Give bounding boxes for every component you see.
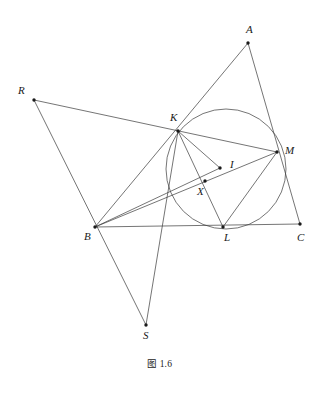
point-X xyxy=(203,179,206,182)
segment-R-S xyxy=(34,100,146,325)
point-M xyxy=(275,150,278,153)
circle-group xyxy=(166,109,286,229)
segment-K-I xyxy=(178,131,220,168)
incircle-circle xyxy=(166,109,286,229)
segment-A-B xyxy=(95,43,248,227)
figure-canvas xyxy=(0,0,319,393)
point-label-I: I xyxy=(230,159,234,170)
geometry-figure: A B C K L M I X R S 图 1.6 xyxy=(0,0,319,393)
point-label-K: K xyxy=(170,112,177,123)
point-B xyxy=(93,225,96,228)
point-L xyxy=(221,225,224,228)
point-I xyxy=(218,166,221,169)
segment-B-I xyxy=(95,168,220,227)
point-S xyxy=(144,323,147,326)
point-label-A: A xyxy=(246,24,253,35)
point-label-C: C xyxy=(297,232,304,243)
figure-caption: 图 1.6 xyxy=(0,356,319,370)
point-C xyxy=(298,222,301,225)
point-label-M: M xyxy=(285,145,294,156)
point-label-X: X xyxy=(197,186,204,197)
lines-group xyxy=(34,43,300,325)
point-label-B: B xyxy=(84,231,91,242)
point-R xyxy=(32,98,35,101)
point-label-L: L xyxy=(224,232,230,243)
segment-B-C xyxy=(95,224,300,227)
segment-R-M xyxy=(34,100,277,152)
point-A xyxy=(246,41,249,44)
points-group xyxy=(32,41,301,326)
point-label-R: R xyxy=(18,85,25,96)
point-label-S: S xyxy=(143,330,149,341)
point-K xyxy=(176,129,179,132)
